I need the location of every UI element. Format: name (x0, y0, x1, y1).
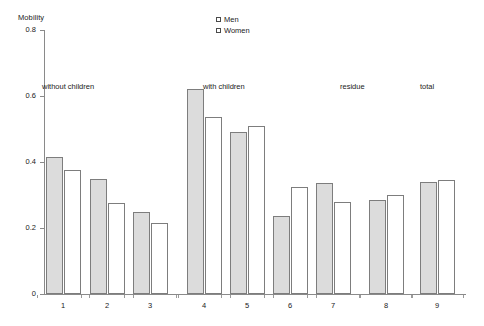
x-axis-tick (412, 295, 413, 298)
x-axis-tick (360, 295, 361, 298)
bar-men-1 (46, 157, 63, 294)
x-axis-tick (221, 295, 222, 298)
y-axis-tick-label: 0.6 (2, 91, 36, 100)
bar-men-2 (90, 179, 107, 294)
legend-swatch-men-icon (216, 17, 221, 22)
bar-women-6 (291, 187, 308, 294)
bar-men-5 (230, 132, 247, 294)
x-axis-tick (133, 295, 134, 298)
bar-men-6 (273, 216, 290, 294)
section-label-total: total (420, 82, 434, 91)
x-axis-tick (89, 295, 90, 298)
bar-women-2 (108, 203, 125, 294)
mobility-bar-chart: Mobility 00.20.40.60.8 123456789 without… (0, 0, 484, 326)
y-axis-tick-label: 0.8 (2, 25, 36, 34)
y-axis-tick-label: 0 (2, 289, 36, 298)
x-axis-tick-label-8: 8 (366, 301, 406, 310)
x-axis-tick-label-1: 1 (43, 301, 83, 310)
bar-women-9 (438, 180, 455, 294)
chart-legend: Men Women (216, 14, 250, 36)
x-axis-tick (463, 295, 464, 298)
y-axis-tick-label: 0.4 (2, 157, 36, 166)
x-axis-tick (411, 295, 412, 298)
x-axis-tick (124, 295, 125, 298)
y-axis-tick (40, 162, 44, 163)
y-axis-title: Mobility (18, 13, 44, 22)
x-axis-tick (316, 295, 317, 298)
x-axis-tick (273, 295, 274, 298)
section-label-residue: residue (340, 82, 365, 91)
bar-women-3 (151, 223, 168, 294)
legend-item-men: Men (216, 14, 250, 25)
legend-label-women: Women (224, 27, 250, 35)
x-axis-tick-label-4: 4 (184, 301, 224, 310)
legend-swatch-women-icon (216, 28, 221, 33)
bar-women-5 (248, 126, 265, 294)
y-axis-tick-label: 0.2 (2, 223, 36, 232)
x-axis-tick-label-3: 3 (130, 301, 170, 310)
y-axis-tick (40, 30, 44, 31)
x-axis-tick (178, 295, 179, 298)
bar-men-9 (420, 182, 437, 294)
x-axis-tick (307, 295, 308, 298)
x-axis-tick (37, 295, 38, 298)
bar-men-3 (133, 212, 150, 294)
x-axis-tick-label-6: 6 (270, 301, 310, 310)
bar-men-8 (369, 200, 386, 294)
x-axis-tick (230, 295, 231, 298)
x-axis-tick (176, 295, 177, 298)
x-axis-tick (81, 295, 82, 298)
bar-women-4 (205, 117, 222, 294)
x-axis-tick-label-7: 7 (313, 301, 353, 310)
section-label-with-children: with children (203, 82, 245, 91)
x-axis-tick (264, 295, 265, 298)
y-axis-tick (40, 228, 44, 229)
legend-item-women: Women (216, 25, 250, 36)
x-axis-tick-label-2: 2 (87, 301, 127, 310)
bar-men-7 (316, 183, 333, 294)
x-axis-line (44, 294, 466, 295)
section-label-without-children: without children (42, 82, 94, 91)
bar-women-8 (387, 195, 404, 294)
x-axis-tick-label-5: 5 (227, 301, 267, 310)
bar-men-4 (187, 89, 204, 294)
bar-women-1 (64, 170, 81, 294)
legend-label-men: Men (224, 16, 239, 24)
bar-women-7 (334, 202, 351, 294)
y-axis-tick (40, 96, 44, 97)
x-axis-tick-label-9: 9 (417, 301, 457, 310)
